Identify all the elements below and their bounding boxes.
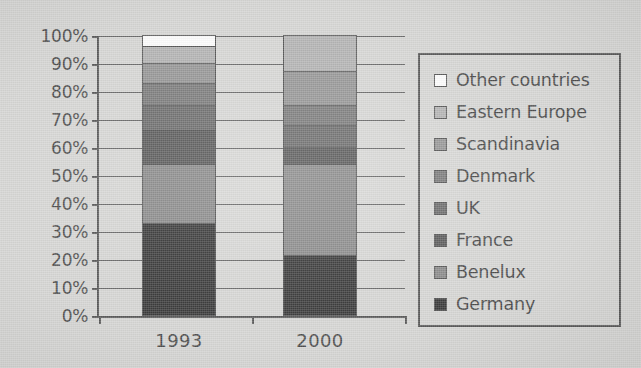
legend-swatch-icon [434, 202, 447, 215]
bar-segment-other-countries [142, 35, 216, 47]
y-axis-label: 80% [51, 82, 88, 102]
y-axis-label: 100% [41, 26, 88, 46]
y-axis-tick [92, 288, 99, 290]
chart-legend: Other countriesEastern EuropeScandinavia… [418, 53, 621, 327]
y-axis-tick [92, 148, 99, 150]
legend-item-label: Scandinavia [456, 134, 560, 154]
y-axis-tick [92, 204, 99, 206]
y-axis-tick [92, 232, 99, 234]
legend-item-label: UK [456, 198, 480, 218]
x-axis-tick [99, 316, 101, 324]
y-axis-tick [92, 316, 99, 318]
y-axis-tick [92, 120, 99, 122]
legend-item-scandinavia[interactable]: Scandinavia [434, 128, 619, 160]
y-axis-tick [92, 260, 99, 262]
y-axis-label: 70% [51, 110, 88, 130]
x-axis-label-1993: 1993 [155, 330, 202, 351]
x-axis-tick [405, 316, 407, 324]
legend-item-label: France [456, 230, 513, 250]
bar-segment-uk [142, 105, 216, 131]
legend-item-germany[interactable]: Germany [434, 288, 619, 320]
legend-swatch-icon [434, 234, 447, 247]
y-axis-label: 40% [51, 194, 88, 214]
bar-segment-france [283, 147, 357, 165]
bar-segment-france [142, 130, 216, 165]
y-axis-tick [92, 36, 99, 38]
y-axis-tick [92, 92, 99, 94]
bar-segment-denmark [142, 83, 216, 106]
y-axis-label: 90% [51, 54, 88, 74]
legend-item-denmark[interactable]: Denmark [434, 160, 619, 192]
x-axis-label-2000: 2000 [296, 330, 343, 351]
bar-segment-germany [283, 255, 357, 316]
x-axis-tick [252, 316, 254, 324]
y-axis-label: 60% [51, 138, 88, 158]
bar-segment-benelux [142, 164, 216, 224]
legend-item-france[interactable]: France [434, 224, 619, 256]
bar-segment-uk [283, 125, 357, 148]
legend-swatch-icon [434, 74, 447, 87]
y-axis-label: 0% [62, 306, 88, 326]
bar-segment-benelux [283, 164, 357, 256]
legend-item-label: Benelux [456, 262, 526, 282]
legend-item-label: Other countries [456, 70, 590, 90]
plot-area: 0%10%20%30%40%50%60%70%80%90%100% 199320… [97, 36, 405, 318]
legend-item-eastern-europe[interactable]: Eastern Europe [434, 96, 619, 128]
stacked-bar-chart: 0%10%20%30%40%50%60%70%80%90%100% 199320… [0, 0, 641, 368]
bar-segment-scandinavia [283, 71, 357, 106]
y-axis-label: 30% [51, 222, 88, 242]
bar-segment-eastern-europe [142, 46, 216, 64]
bar-1993 [142, 36, 216, 316]
y-axis-label: 20% [51, 250, 88, 270]
legend-item-other-countries[interactable]: Other countries [434, 64, 619, 96]
y-axis-tick [92, 176, 99, 178]
legend-swatch-icon [434, 266, 447, 279]
legend-item-benelux[interactable]: Benelux [434, 256, 619, 288]
legend-swatch-icon [434, 138, 447, 151]
legend-swatch-icon [434, 298, 447, 311]
bar-segment-scandinavia [142, 63, 216, 84]
legend-item-label: Denmark [456, 166, 535, 186]
bar-segment-germany [142, 223, 216, 316]
bar-segment-denmark [283, 105, 357, 126]
y-axis-label: 10% [51, 278, 88, 298]
bar-segment-eastern-europe [283, 35, 357, 72]
y-axis-tick [92, 64, 99, 66]
y-axis-label: 50% [51, 166, 88, 186]
legend-item-label: Eastern Europe [456, 102, 587, 122]
legend-item-uk[interactable]: UK [434, 192, 619, 224]
legend-swatch-icon [434, 170, 447, 183]
bar-2000 [283, 36, 357, 316]
legend-swatch-icon [434, 106, 447, 119]
legend-item-label: Germany [456, 294, 535, 314]
